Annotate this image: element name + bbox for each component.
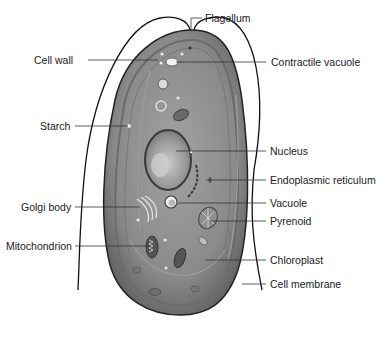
label-pyrenoid: Pyrenoid [270,215,311,227]
label-flagellum: Flagellum [205,12,251,24]
label-cell-membrane: Cell membrane [270,278,341,290]
label-contractile-vacuole: Contractile vacuole [271,56,360,68]
label-chloroplast: Chloroplast [270,254,323,266]
mitochondrion-shape [146,236,158,258]
label-nucleus: Nucleus [270,145,308,157]
label-starch: Starch [40,120,70,132]
label-endoplasmic-reticulum: Endoplasmic reticulum [270,174,376,186]
label-mitochondrion: Mitochondrion [6,240,72,252]
label-vacuole: Vacuole [270,197,307,209]
label-cell-wall: Cell wall [34,54,73,66]
label-golgi-body: Golgi body [21,201,71,213]
